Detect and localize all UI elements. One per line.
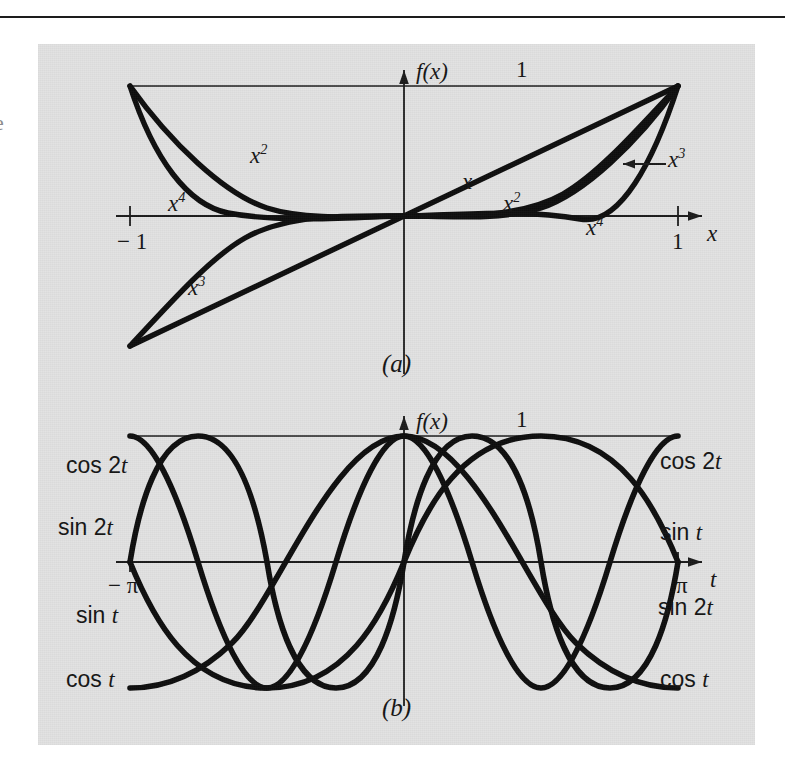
- curve-label-cost-left: cos t: [66, 668, 115, 691]
- curve-label-sint-left: sin t: [76, 604, 118, 627]
- t-axis-label-b: t: [710, 568, 716, 591]
- tick-label-minus-pi-b: − π: [108, 574, 138, 597]
- curve-label-x4-left: x4: [168, 192, 185, 215]
- textbook-page: e: [0, 0, 785, 780]
- curve-label-cos2t-right: cos 2t: [660, 450, 721, 473]
- t-axis-arrow-b: [688, 557, 702, 567]
- tick-label-one-a: 1: [672, 230, 684, 253]
- curve-label-cos2t-left: cos 2t: [66, 454, 127, 477]
- curve-label-x4-right: x4: [586, 216, 603, 239]
- panel-b-plot: [38, 396, 755, 745]
- caption-b: (b): [38, 694, 755, 722]
- curve-label-x2-right: x2: [503, 192, 520, 215]
- level-one-label-a: 1: [516, 58, 528, 81]
- page-top-rule: [0, 16, 785, 18]
- curve-label-sin2t-right: sin 2t: [658, 596, 713, 619]
- curve-label-x-right: x: [462, 170, 472, 193]
- curve-label-sint-right: sin t: [660, 521, 702, 544]
- leader-arrow-x3-a: [623, 160, 635, 169]
- margin-text-fragment: e: [0, 112, 4, 134]
- y-axis-label-b: f(x): [416, 410, 448, 433]
- curve-label-x2-left: x2: [250, 144, 267, 167]
- x-axis-label-a: x: [707, 222, 717, 245]
- panel-b: f(x) 1 t − π π cos 2t sin 2t sin t cos t…: [38, 396, 755, 745]
- figure-plate: f(x) 1 x − 1 1 x2 x4 x3 x x2 x3 x4 (a): [38, 44, 755, 745]
- curve-label-sin2t-left: sin 2t: [58, 516, 113, 539]
- y-axis-arrow-a: [399, 70, 409, 84]
- y-axis-arrow-b: [399, 416, 409, 430]
- caption-a: (a): [38, 350, 755, 378]
- tick-label-minus-one-a: − 1: [117, 230, 147, 253]
- curve-label-x3-right: x3: [668, 148, 685, 171]
- curve-label-cost-right: cos t: [660, 668, 709, 691]
- panel-a: f(x) 1 x − 1 1 x2 x4 x3 x x2 x3 x4 (a): [38, 44, 755, 404]
- curve-label-x3-left: x3: [188, 276, 205, 299]
- x-axis-arrow-a: [688, 211, 702, 221]
- level-one-label-b: 1: [516, 408, 528, 431]
- y-axis-label-a: f(x): [416, 60, 448, 83]
